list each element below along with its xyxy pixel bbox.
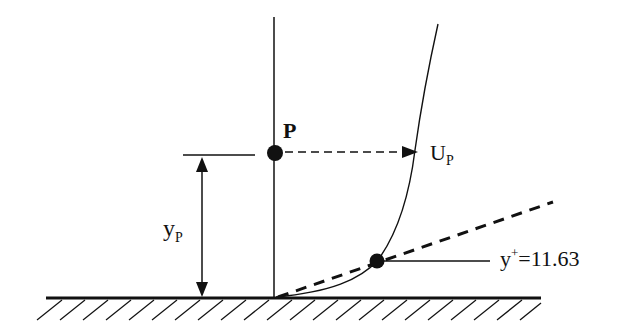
label-yplus-main: y [500, 246, 511, 271]
label-yplus-sup: + [511, 245, 518, 260]
label-yp-main: y [163, 215, 175, 241]
label-up: UP [430, 140, 454, 168]
yp-arrow-up-icon [196, 157, 208, 172]
label-yp-sub: P [175, 230, 183, 245]
yp-arrow-down-icon [196, 282, 208, 297]
point-p-dot [267, 145, 283, 161]
velocity-profile-curve [276, 24, 438, 297]
label-yplus-value: =11.63 [518, 246, 579, 271]
yplus-point-dot [370, 254, 385, 269]
label-up-main: U [430, 140, 446, 165]
wall-hatching [37, 300, 541, 320]
label-yp: yP [163, 215, 183, 245]
label-p: P [283, 118, 296, 143]
wall-function-diagram: P UP yP y+=11.63 [0, 0, 625, 336]
label-up-sub: P [446, 153, 454, 168]
label-yplus: y+=11.63 [500, 245, 579, 271]
